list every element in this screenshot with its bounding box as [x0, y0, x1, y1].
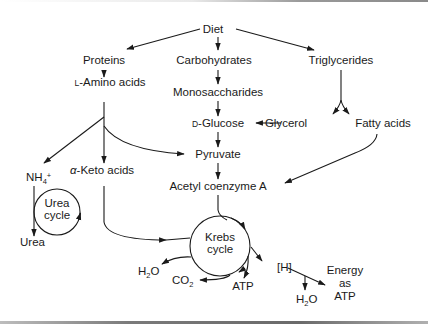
node-urea: Urea [20, 236, 46, 248]
arrow-hydrogen-energy [288, 268, 325, 285]
arrow-triglycerides-fatty [341, 100, 349, 114]
node-h2o-left: H2O [138, 265, 159, 280]
keto-krebs-join [166, 238, 190, 240]
arrow-diet-triglycerides [236, 29, 314, 50]
node-atp: ATP [232, 280, 254, 292]
node-energy-3: ATP [334, 290, 356, 302]
node-acetyl-coa: Acetyl coenzyme A [169, 180, 266, 192]
node-keto-acids: α-Keto acids [70, 164, 134, 176]
urea-cycle-label-1: Urea [45, 197, 71, 209]
arrow-amino-ammonium [44, 117, 104, 163]
node-proteins: Proteins [83, 54, 125, 66]
arrow-krebs-hydrogen [251, 247, 262, 261]
node-energy-2: as [339, 277, 351, 289]
node-ammonium: NH4+ [26, 171, 52, 186]
krebs-cycle-label-2: cycle [207, 243, 233, 255]
arrow-fatty-acetyl [285, 134, 377, 183]
node-amino-acids: L-Amino acids [74, 76, 145, 88]
node-triglycerides: Triglycerides [309, 54, 374, 66]
arrow-krebs-atp [244, 256, 248, 278]
arrow-diet-proteins [127, 29, 200, 49]
urea-cycle-label-2: cycle [44, 209, 70, 221]
krebs-cycle-label-1: Krebs [205, 231, 235, 243]
arrow-keto-krebs [104, 186, 166, 240]
node-h2o-right: H2O [296, 293, 317, 308]
node-pyruvate: Pyruvate [195, 148, 240, 160]
arrow-triglycerides-glycerol [333, 100, 341, 114]
node-hydrogen: [H] [277, 261, 292, 273]
node-monosaccharides: Monosaccharides [173, 86, 263, 98]
arrow-amino-pyruvate [104, 126, 184, 154]
node-co2: CO2 [172, 274, 193, 289]
node-fatty-acids: Fatty acids [355, 117, 411, 129]
urea-cycle-direction-arrow [79, 213, 81, 218]
node-glucose: D-Glucose [192, 117, 244, 129]
metabolic-pathway-diagram: Diet Proteins Carbohydrates Triglyceride… [0, 0, 428, 324]
node-carbohydrates: Carbohydrates [176, 54, 252, 66]
arrow-krebs-h2o [162, 257, 191, 264]
node-energy-1: Energy [327, 264, 364, 276]
node-diet: Diet [203, 23, 224, 35]
